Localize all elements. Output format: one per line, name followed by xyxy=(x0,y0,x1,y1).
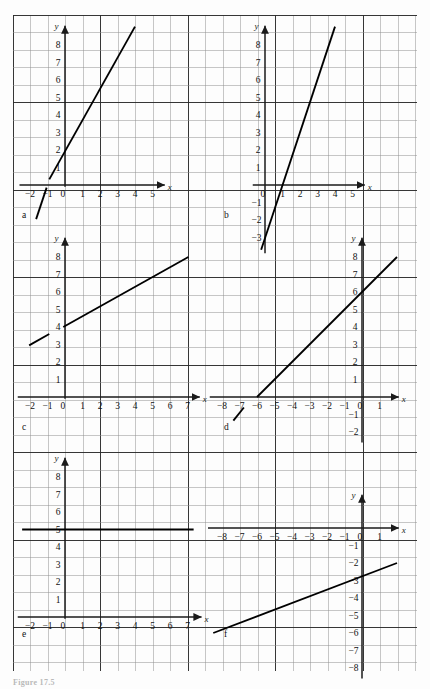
x-axis-label-c: x xyxy=(202,394,207,404)
figure-caption: Figure 17.5 xyxy=(13,678,55,687)
y-tick-label-c-2: 2 xyxy=(56,357,61,367)
x-tick-label-e-4: 4 xyxy=(133,621,138,631)
x-tick-label-c-5: 5 xyxy=(150,401,155,411)
y-tick-label-b-3: 3 xyxy=(256,128,261,138)
y-tick-label-c-8: 8 xyxy=(56,252,61,262)
panel-letter-d: d xyxy=(224,422,229,432)
x-tick-label-f--6: −6 xyxy=(252,532,262,542)
y-tick-label-f-neg1: −1 xyxy=(348,541,358,551)
x-tick-label-d--8: −8 xyxy=(217,401,227,411)
y-tick-label-b-1: 1 xyxy=(256,163,261,173)
y-tick-label-d-3: 3 xyxy=(353,340,358,350)
x-tick-label-c-6: 6 xyxy=(168,401,173,411)
y-tick-label-a-8: 8 xyxy=(56,40,61,50)
x-tick-label-e-1: 1 xyxy=(80,621,85,631)
x-tick-label-d--5: −5 xyxy=(269,401,279,411)
y-tick-label-d-2: 2 xyxy=(353,357,358,367)
y-tick-label-d-neg2: −2 xyxy=(348,427,358,437)
panel-letter-b: b xyxy=(224,210,229,220)
y-tick-label-d-neg1: −1 xyxy=(348,410,358,420)
x-tick-label-f--7: −7 xyxy=(234,532,244,542)
y-tick-label-f-neg7: −7 xyxy=(348,646,358,656)
graphs-figure: xy−2−101234512345678axy01234512345678−1−… xyxy=(0,0,430,689)
y-tick-label-a-6: 6 xyxy=(56,75,61,85)
x-tick-label-c-7: 7 xyxy=(185,401,190,411)
x-tick-label-f--8: −8 xyxy=(217,532,227,542)
y-tick-label-f-neg2: −2 xyxy=(348,558,358,568)
x-tick-label-e-0: 0 xyxy=(60,621,65,631)
x-tick-label-c-1: 1 xyxy=(80,401,85,411)
x-tick-label-a-3: 3 xyxy=(115,189,120,199)
panel-letter-e: e xyxy=(22,629,26,639)
y-tick-label-a-3: 3 xyxy=(56,128,61,138)
x-axis-label-b: x xyxy=(367,182,372,192)
x-tick-label-c-0: 0 xyxy=(60,401,65,411)
y-tick-label-b-2: 2 xyxy=(256,145,261,155)
x-tick-label-e-7: 7 xyxy=(185,621,190,631)
y-tick-label-e-3: 3 xyxy=(56,560,61,570)
y-tick-label-c-4: 4 xyxy=(56,322,61,332)
x-tick-label-d--3: −3 xyxy=(304,401,314,411)
x-tick-label-b-2: 2 xyxy=(298,189,303,199)
x-axis-label-a: x xyxy=(167,182,172,192)
panel-letter-c: c xyxy=(22,422,26,432)
x-tick-label-b-3: 3 xyxy=(315,189,320,199)
y-axis-label-c: y xyxy=(54,233,59,243)
y-tick-label-c-3: 3 xyxy=(56,340,61,350)
y-tick-label-a-2: 2 xyxy=(56,145,61,155)
x-tick-label-b-4: 4 xyxy=(333,189,338,199)
y-tick-label-e-6: 6 xyxy=(56,507,61,517)
y-tick-label-d-1: 1 xyxy=(353,375,358,385)
x-tick-label-d--4: −4 xyxy=(287,401,297,411)
y-tick-label-b-4: 4 xyxy=(256,110,261,120)
y-tick-label-e-2: 2 xyxy=(56,577,61,587)
y-axis-label-a: y xyxy=(54,21,59,31)
x-tick-label-b-5: 5 xyxy=(350,189,355,199)
x-tick-label-e--2: −2 xyxy=(25,621,35,631)
y-tick-label-c-6: 6 xyxy=(56,287,61,297)
y-tick-label-a-4: 4 xyxy=(56,110,61,120)
x-tick-label-e-3: 3 xyxy=(115,621,120,631)
y-axis-label-f: y xyxy=(351,490,356,500)
y-tick-label-b-7: 7 xyxy=(256,58,261,68)
y-tick-label-e-4: 4 xyxy=(56,542,61,552)
x-axis-label-f: x xyxy=(401,525,406,535)
y-tick-label-d-7: 7 xyxy=(353,270,358,280)
y-axis-label-e: y xyxy=(54,453,59,463)
x-tick-label-d--6: −6 xyxy=(252,401,262,411)
y-tick-label-b-5: 5 xyxy=(256,93,261,103)
x-tick-label-e-5: 5 xyxy=(150,621,155,631)
y-tick-label-f-neg6: −6 xyxy=(348,628,358,638)
y-tick-label-f-neg5: −5 xyxy=(348,611,358,621)
y-tick-label-d-4: 4 xyxy=(353,322,358,332)
x-tick-label-a-5: 5 xyxy=(150,189,155,199)
y-tick-label-c-7: 7 xyxy=(56,270,61,280)
y-tick-label-e-8: 8 xyxy=(56,472,61,482)
x-tick-label-f--2: −2 xyxy=(322,532,332,542)
y-tick-label-c-1: 1 xyxy=(56,375,61,385)
x-tick-label-c--1: −1 xyxy=(42,401,52,411)
x-tick-label-a-0: 0 xyxy=(60,189,65,199)
y-tick-label-d-8: 8 xyxy=(353,252,358,262)
x-axis-label-e: x xyxy=(204,614,209,624)
y-tick-label-f-neg8: −8 xyxy=(348,663,358,673)
y-tick-label-f-neg4: −4 xyxy=(348,593,358,603)
x-tick-label-a-2: 2 xyxy=(98,189,103,199)
x-tick-label-e-2: 2 xyxy=(98,621,103,631)
x-tick-label-f-1: 1 xyxy=(377,532,382,542)
y-tick-label-c-5: 5 xyxy=(56,305,61,315)
x-tick-label-f--5: −5 xyxy=(269,532,279,542)
y-axis-label-b: y xyxy=(254,21,259,31)
y-tick-label-a-7: 7 xyxy=(56,58,61,68)
x-tick-label-f--3: −3 xyxy=(304,532,314,542)
y-tick-label-e-1: 1 xyxy=(56,595,61,605)
x-tick-label-d--2: −2 xyxy=(322,401,332,411)
y-tick-label-b-6: 6 xyxy=(256,75,261,85)
x-tick-label-e-6: 6 xyxy=(168,621,173,631)
x-axis-label-d: x xyxy=(401,394,406,404)
y-tick-label-b-neg1: −1 xyxy=(251,198,261,208)
x-tick-label-a--2: −2 xyxy=(25,189,35,199)
x-tick-label-f--4: −4 xyxy=(287,532,297,542)
y-tick-label-d-5: 5 xyxy=(353,305,358,315)
x-tick-label-a-4: 4 xyxy=(133,189,138,199)
